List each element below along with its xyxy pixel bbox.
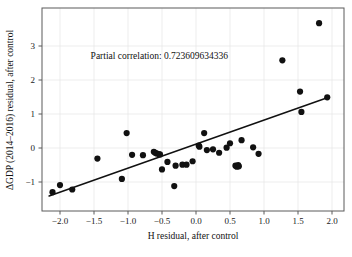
data-point: [201, 130, 207, 136]
data-point: [129, 152, 135, 158]
y-tick-label: 2: [31, 75, 36, 85]
y-axis-title: ΔGDP (2014–2016) residual, after control: [5, 30, 16, 190]
data-point: [57, 182, 63, 188]
data-point: [255, 151, 261, 157]
x-tick-label: 0.5: [224, 216, 236, 226]
y-tick-label: 3: [31, 41, 36, 51]
y-tick-label: 1: [31, 109, 36, 119]
data-point: [140, 152, 146, 158]
data-point: [324, 94, 330, 100]
partial-correlation-label: Partial correlation: 0.723609634336: [91, 51, 229, 61]
x-tick-label: −2.0: [52, 216, 69, 226]
data-point: [216, 150, 222, 156]
data-point: [173, 163, 179, 169]
y-tick-label: 0: [31, 143, 36, 153]
data-point: [238, 137, 244, 143]
scatter-plot-figure: −2.0−1.5−1.0−0.50.00.51.01.52.0 −10123 P…: [0, 0, 352, 257]
x-tick-label: −0.5: [154, 216, 171, 226]
data-point: [250, 144, 256, 150]
plot-frame: [42, 8, 344, 211]
x-axis-title: H residual, after control: [148, 231, 239, 241]
data-point: [124, 130, 130, 136]
data-point: [196, 144, 202, 150]
data-point: [190, 158, 196, 164]
grid-lines: [42, 8, 344, 211]
data-point: [119, 176, 125, 182]
x-tick-label: −1.5: [86, 216, 103, 226]
plot-canvas: −2.0−1.5−1.0−0.50.00.51.01.52.0 −10123 P…: [0, 0, 352, 257]
data-point: [157, 151, 163, 157]
data-point: [210, 146, 216, 152]
data-point: [49, 189, 55, 195]
data-point: [236, 163, 242, 169]
annotation-layer: Partial correlation: 0.723609634336: [91, 51, 229, 61]
plot-border: [42, 8, 344, 211]
data-point: [227, 140, 233, 146]
x-tick-label: 1.5: [292, 216, 304, 226]
x-tick-label: 1.0: [258, 216, 270, 226]
x-tick-labels: −2.0−1.5−1.0−0.50.00.51.01.52.0: [52, 216, 338, 226]
data-point: [171, 183, 177, 189]
regression-line-segment: [49, 98, 327, 196]
data-point: [316, 20, 322, 26]
data-point: [204, 147, 210, 153]
data-point: [183, 162, 189, 168]
regression-line: [49, 98, 327, 196]
axis-ticks: [39, 46, 333, 215]
data-point: [69, 186, 75, 192]
x-tick-label: 0.0: [190, 216, 202, 226]
y-tick-label: −1: [25, 177, 35, 187]
y-tick-labels: −10123: [25, 41, 35, 187]
data-point: [159, 166, 165, 172]
x-tick-label: 2.0: [326, 216, 338, 226]
x-tick-label: −1.0: [120, 216, 137, 226]
data-point: [94, 155, 100, 161]
data-point: [297, 88, 303, 94]
data-point: [298, 109, 304, 115]
data-point: [164, 159, 170, 165]
data-point: [279, 57, 285, 63]
